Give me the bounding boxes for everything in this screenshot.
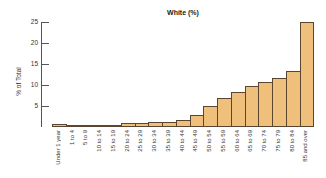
bar [272,78,287,127]
x-tick-label: 60 to 64 [234,130,240,152]
y-tick-label: 15 [22,60,38,67]
y-tick [41,106,49,107]
chart-title: White (%) [0,9,326,16]
y-axis-label: % of Total [15,62,22,102]
x-tick-label: 80 to 84 [289,130,295,152]
x-tick-label: 15 to 19 [110,130,116,152]
y-tick [41,43,49,44]
x-tick-label: Under 1 year [55,130,61,165]
y-tick [41,85,49,86]
x-tick-label: 85 and over [302,130,308,162]
y-tick-label: 10 [22,81,38,88]
x-tick-label: 5 to 9 [82,130,88,145]
y-axis [41,22,42,127]
y-tick-label: 5 [22,102,38,109]
bar [300,22,315,127]
bar [245,86,260,127]
x-tick-label: 25 to 29 [137,130,143,152]
bar [93,125,108,127]
bar [148,122,163,127]
x-tick-label: 70 to 74 [261,130,267,152]
bar [66,125,81,127]
bar [217,98,232,127]
x-tick-label: 50 to 54 [206,130,212,152]
x-tick-label: 75 to 79 [275,130,281,152]
x-tick-label: 20 to 24 [124,130,130,152]
x-tick-label: 55 to 59 [220,130,226,152]
bar [107,125,122,127]
bar [121,123,136,127]
bar [135,123,150,127]
y-tick [41,64,49,65]
bar [258,82,273,127]
y-tick-label: 25 [22,18,38,25]
bar [176,120,191,127]
bar [190,115,205,127]
x-tick-label: 30 to 34 [151,130,157,152]
x-tick-label: 1 to 4 [69,130,75,145]
x-tick-label: 40 to 44 [179,130,185,152]
bar [286,71,301,127]
bar [231,92,246,127]
x-tick-label: 35 to 39 [165,130,171,152]
y-tick [41,22,49,23]
x-tick-label: 45 to 49 [192,130,198,152]
x-tick-label: 65 to 69 [247,130,253,152]
y-tick-label: 20 [22,39,38,46]
x-tick-label: 10 to 14 [96,130,102,152]
bar [80,125,95,127]
bar [162,122,177,127]
bar [52,124,67,127]
bar [203,106,218,127]
